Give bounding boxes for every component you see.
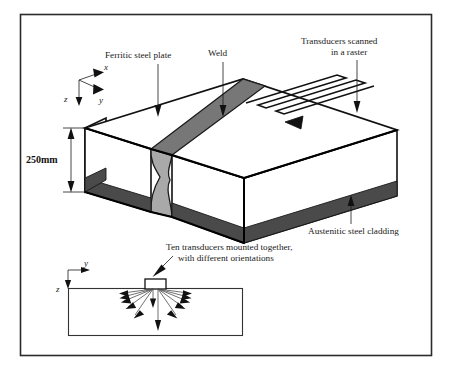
- thickness-label: 250mm: [26, 154, 58, 165]
- axis-label-y-upper: y: [98, 95, 103, 105]
- ten-transducers-label-line1: Ten transducers mounted together,: [166, 242, 293, 252]
- transducers-raster-label-line2: in a raster: [331, 47, 367, 57]
- ferritic-plate-label: Ferritic steel plate: [105, 50, 171, 60]
- weld-label: Weld: [208, 48, 228, 58]
- axis-label-x-upper: x: [103, 62, 108, 72]
- axis-label-z-upper: z: [63, 94, 68, 104]
- ten-transducers-label-line2: with different orientations: [178, 253, 274, 263]
- technical-diagram-svg: x y z 250mm Ferritic steel plate Weld: [0, 0, 451, 373]
- cladding-label: Austenitic steel cladding: [308, 226, 399, 236]
- transducers-raster-label-line1: Transducers scanned: [301, 36, 378, 46]
- figure-container: x y z 250mm Ferritic steel plate Weld: [0, 0, 451, 373]
- transducer-assembly-box: [145, 279, 166, 289]
- axis-label-y-lower: y: [83, 258, 88, 268]
- axis-label-z-lower: z: [55, 284, 60, 294]
- cross-section-plate: [69, 289, 243, 336]
